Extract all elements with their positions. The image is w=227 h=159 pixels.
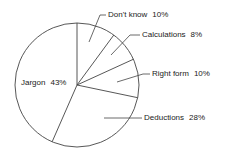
label-name: Calculations [142, 30, 186, 39]
label-deductions: Deductions28% [144, 113, 205, 123]
label-pct: 43% [50, 78, 66, 87]
label-name: Don't know [108, 10, 147, 19]
label-dont-know: Don't know10% [108, 10, 168, 20]
label-right-form: Right form10% [152, 69, 210, 79]
label-name: Deductions [144, 113, 184, 122]
label-name: Jargon [21, 78, 45, 87]
label-pct: 10% [152, 10, 168, 19]
label-name: Right form [152, 69, 189, 78]
label-calculations: Calculations8% [142, 30, 202, 40]
label-pct: 28% [189, 113, 205, 122]
label-pct: 8% [191, 30, 203, 39]
label-jargon: Jargon43% [21, 78, 66, 88]
label-pct: 10% [194, 69, 210, 78]
